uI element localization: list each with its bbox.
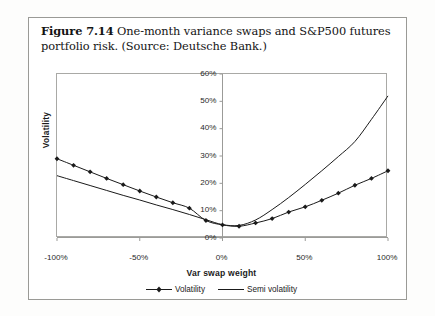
y-tick-label: 50%: [187, 96, 217, 105]
figure-caption: Figure 7.14 One-month variance swaps and…: [41, 24, 397, 53]
data-point-marker: [170, 200, 175, 205]
legend-label-semi-volatility: Semi volatility: [247, 285, 297, 294]
y-tick-label: 60%: [187, 69, 217, 78]
plot-area: 0%10%20%30%40%50%60%: [56, 73, 387, 237]
x-axis-title: Var swap weight: [56, 268, 387, 278]
figure-page: Figure 7.14 One-month variance swaps and…: [0, 0, 435, 316]
y-axis-title: Volatility: [41, 90, 51, 170]
y-tick-label: 0%: [187, 233, 217, 242]
legend-item-semi-volatility: Semi volatility: [218, 285, 297, 294]
data-point-marker: [353, 183, 358, 188]
x-axis-ticks: [57, 238, 388, 241]
data-point-marker: [336, 191, 341, 196]
y-tick-label: 40%: [187, 123, 217, 132]
figure-number: Figure 7.14: [41, 24, 114, 38]
data-point-marker: [386, 168, 391, 173]
data-point-marker: [154, 195, 159, 200]
data-point-marker: [137, 189, 142, 194]
data-point-marker: [369, 176, 374, 181]
data-point-marker: [104, 176, 109, 181]
y-tick-label: 30%: [187, 151, 217, 160]
y-tick-label: 20%: [187, 178, 217, 187]
legend-line-icon: [218, 285, 244, 294]
chart-svg: [57, 74, 388, 238]
x-tick-label: -100%: [36, 253, 76, 262]
legend-item-volatility: Volatility: [146, 285, 205, 294]
y-tick-label: 10%: [187, 205, 217, 214]
x-tick-label: 50%: [284, 253, 324, 262]
data-point-marker: [121, 182, 126, 187]
data-point-marker: [237, 224, 242, 229]
data-point-marker: [71, 163, 76, 168]
data-point-marker: [270, 216, 275, 221]
data-point-marker: [220, 222, 225, 227]
legend-marker-diamond-icon: [146, 285, 172, 294]
legend-label-volatility: Volatility: [175, 285, 205, 294]
x-tick-label: 100%: [367, 253, 407, 262]
data-point-marker: [55, 156, 60, 161]
chart-legend: Volatility Semi volatility: [56, 285, 387, 294]
x-tick-label: 0%: [202, 253, 242, 262]
data-point-marker: [88, 169, 93, 174]
data-point-marker: [303, 204, 308, 209]
chart: Volatility 0%10%20%30%40%50%60% -100%-50…: [28, 63, 407, 295]
data-point-marker: [319, 198, 324, 203]
x-tick-label: -50%: [119, 253, 159, 262]
data-point-marker: [286, 210, 291, 215]
